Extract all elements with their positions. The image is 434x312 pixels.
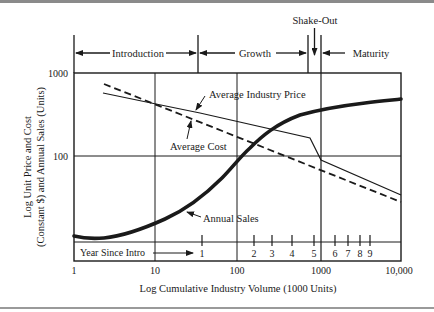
x-tick-1: 1 xyxy=(72,265,77,276)
year-label-3: 3 xyxy=(270,248,275,259)
year-label-8: 8 xyxy=(358,248,363,259)
y-axis-title: Log Unit Price and Cost (Constant $) and… xyxy=(22,86,47,247)
phase-label-shakeout: Shake-Out xyxy=(293,15,338,26)
x-axis-title: Log Cumulative Industry Volume (1000 Uni… xyxy=(139,283,337,295)
x-tick-100: 100 xyxy=(230,265,245,276)
annotation-average-cost: Average Cost xyxy=(170,141,227,152)
series-average-cost xyxy=(104,84,401,202)
year-tick-labels: 1 2 3 4 5 6 7 8 9 xyxy=(200,248,373,259)
phase-label-introduction: Introduction xyxy=(112,48,165,59)
top-rule xyxy=(0,0,434,3)
phase-label-maturity: Maturity xyxy=(353,48,390,59)
x-tick-1000: 1000 xyxy=(311,265,331,276)
year-label-5: 5 xyxy=(312,248,317,259)
y-tick-100: 100 xyxy=(53,151,68,162)
x-tick-10000: 10,000 xyxy=(385,265,413,276)
year-ticks xyxy=(202,235,370,246)
y-axis-title-line2: (Constant $) and Annual Sales (Units) xyxy=(35,86,47,247)
x-tick-10: 10 xyxy=(150,265,160,276)
year-strip-label: Year Since Intro xyxy=(80,247,145,258)
bottom-rule xyxy=(0,307,434,309)
annotation-average-industry-price: Average Industry Price xyxy=(209,89,306,100)
year-label-7: 7 xyxy=(346,248,351,259)
year-label-6: 6 xyxy=(333,248,338,259)
year-label-9: 9 xyxy=(368,248,373,259)
year-label-4: 4 xyxy=(290,248,295,259)
phase-label-growth: Growth xyxy=(239,48,272,59)
annotation-sales-leader xyxy=(187,212,201,217)
annotation-annual-sales: Annual Sales xyxy=(203,213,259,224)
annotation-price-leader xyxy=(196,96,205,110)
year-label-2: 2 xyxy=(252,248,257,259)
y-tick-1000: 1000 xyxy=(48,68,68,79)
product-life-cycle-chart: Introduction Growth Shake-Out Maturity 1… xyxy=(0,0,434,312)
y-axis-title-line1: Log Unit Price and Cost xyxy=(22,116,33,218)
year-label-1: 1 xyxy=(200,248,205,259)
annotation-cost-leader xyxy=(187,121,191,139)
